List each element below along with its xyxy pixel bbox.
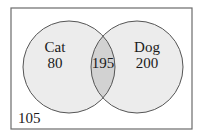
cat-label: Cat <box>45 39 67 55</box>
dog-label: Dog <box>134 39 160 55</box>
venn-diagram: Cat 80 195 Dog 200 105 <box>0 0 204 137</box>
universe-count: 105 <box>18 110 41 126</box>
intersection-count: 195 <box>92 55 115 71</box>
cat-only-count: 80 <box>48 55 63 71</box>
dog-only-count: 200 <box>136 55 159 71</box>
